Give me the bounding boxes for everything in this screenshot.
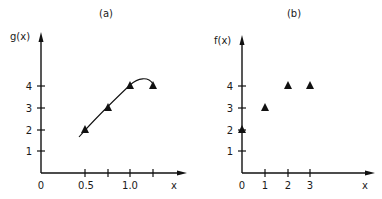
triangle-marker-icon [306, 81, 314, 89]
panel-a-xlabel: x [171, 180, 177, 191]
panel-b-origin: 0 [239, 180, 245, 191]
panel-a-ytick-1: 1 [26, 146, 32, 157]
triangle-marker-icon [81, 125, 89, 133]
panel-a-ytick-3: 3 [26, 103, 32, 114]
panel-b-markers [238, 81, 314, 133]
panel-b-title: (b) [287, 8, 301, 19]
panel-a-markers [81, 81, 157, 133]
panel-a-y-arrow-icon [39, 32, 44, 42]
panel-a-title: (a) [99, 8, 113, 19]
triangle-marker-icon [149, 81, 157, 89]
panel-b-ytick-4: 4 [227, 81, 233, 92]
panel-a-xtick-0.5: 0.5 [78, 180, 94, 191]
panel-b-ylabel: f(x) [214, 35, 231, 46]
panel-a-xtick-1.0: 1.0 [122, 180, 138, 191]
panel-a-ylabel: g(x) [10, 31, 30, 42]
figure: (a) g(x) 4 3 2 1 0 0.5 1.0 x [0, 0, 382, 199]
panel-b-x-arrow-icon [365, 171, 375, 176]
panel-b-xtick-2: 2 [285, 180, 291, 191]
panel-a-ytick-2: 2 [26, 125, 32, 136]
triangle-marker-icon [284, 81, 292, 89]
panel-a-x-arrow-icon [177, 171, 187, 176]
panel-b-ytick-2: 2 [227, 125, 233, 136]
panel-a: (a) g(x) 4 3 2 1 0 0.5 1.0 x [10, 8, 187, 191]
panel-b-xtick-1: 1 [262, 180, 268, 191]
panel-a-ytick-4: 4 [26, 81, 32, 92]
panel-b: (b) f(x) 4 3 2 1 0 1 2 3 x [214, 8, 375, 191]
panel-b-y-arrow-icon [240, 35, 245, 45]
panel-b-ytick-1: 1 [227, 146, 233, 157]
panel-a-curve [79, 79, 153, 137]
panel-b-xlabel: x [362, 180, 368, 191]
panel-b-xtick-3: 3 [307, 180, 313, 191]
panel-a-origin: 0 [38, 180, 44, 191]
triangle-marker-icon [238, 125, 246, 133]
panel-b-ytick-3: 3 [227, 103, 233, 114]
triangle-marker-icon [261, 103, 269, 111]
